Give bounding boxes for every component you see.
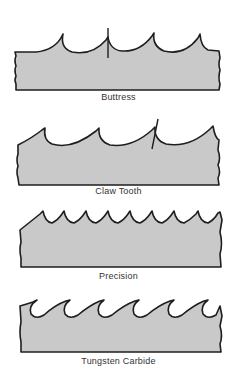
tungsten-carbide-label: Tungsten Carbide <box>0 356 237 366</box>
claw-tooth-blade <box>17 119 220 185</box>
buttress-label: Buttress <box>0 92 237 102</box>
precision-blade <box>20 211 222 267</box>
buttress-blade <box>15 28 220 90</box>
claw-tooth-label: Claw Tooth <box>0 186 237 196</box>
saw-blade-diagram <box>0 0 237 369</box>
tungsten-carbide-blade <box>20 300 222 352</box>
precision-label: Precision <box>0 271 237 281</box>
